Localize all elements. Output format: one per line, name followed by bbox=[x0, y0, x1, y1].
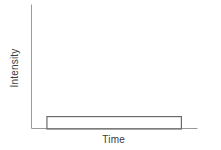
intensity-vs-time-chart: Intensity Time bbox=[0, 0, 221, 150]
rectangular-pulse bbox=[47, 117, 181, 129]
x-axis-label: Time bbox=[46, 135, 180, 145]
plot-canvas bbox=[0, 0, 221, 150]
y-axis-label: Intensity bbox=[10, 0, 22, 143]
